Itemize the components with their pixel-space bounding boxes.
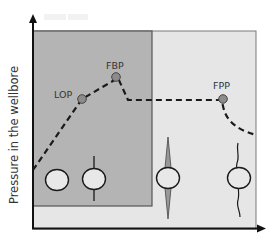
fpp-label: FPP bbox=[213, 80, 230, 91]
ghost-text bbox=[44, 14, 88, 20]
diagram-canvas: LOP FBP FPP bbox=[0, 0, 277, 243]
y-axis-arrow-icon bbox=[29, 14, 37, 23]
fbp-label: FBP bbox=[106, 60, 124, 71]
lop-label: LOP bbox=[54, 89, 72, 100]
fpp-point bbox=[219, 95, 228, 104]
borehole-intact-icon bbox=[46, 170, 69, 191]
lop-point bbox=[78, 95, 87, 104]
pressure-diagram: LOP FBP FPP Pressure in the wellbore bbox=[0, 0, 277, 243]
fbp-point bbox=[112, 73, 121, 82]
y-axis-label: Pressure in the wellbore bbox=[4, 60, 24, 210]
x-axis-arrow-icon bbox=[257, 225, 266, 233]
y-axis-label-text: Pressure in the wellbore bbox=[7, 66, 21, 204]
